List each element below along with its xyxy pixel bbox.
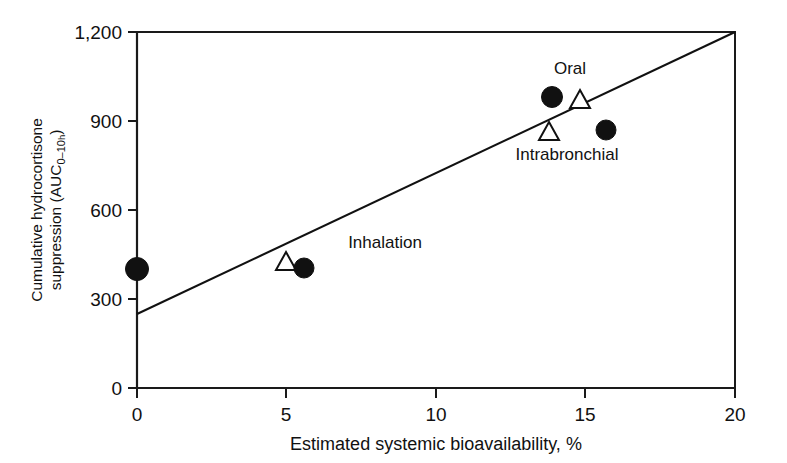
- figure-container: 0 300 600 900 1,200 0 5 10 15 20 Estimat…: [0, 0, 787, 463]
- x-tick-label-5: 5: [281, 404, 292, 425]
- data-point-filled-circle-intrabronchial: [596, 120, 616, 140]
- y-axis-ticks: [128, 32, 137, 388]
- y-axis-title-paren-close: ): [47, 130, 64, 135]
- y-axis-title-line2-main: suppression (AUC: [47, 165, 64, 291]
- data-point-open-triangle-inhalation: [276, 252, 296, 270]
- data-point-filled-circle-inhalation: [294, 258, 314, 278]
- y-tick-label-1200: 1,200: [74, 22, 122, 43]
- x-tick-label-0: 0: [132, 404, 143, 425]
- data-point-filled-circle-oral: [542, 87, 563, 108]
- y-axis-title-line2: suppression (AUC0–10h): [47, 130, 67, 291]
- y-axis-title-line1: Cumulative hydrocortisone: [28, 118, 45, 302]
- y-tick-label-900: 900: [90, 111, 122, 132]
- y-tick-label-300: 300: [90, 289, 122, 310]
- trend-line: [137, 32, 735, 314]
- plot-frame: [137, 32, 735, 388]
- x-tick-label-10: 10: [425, 404, 446, 425]
- x-axis-ticks: [137, 388, 735, 398]
- x-tick-label-20: 20: [724, 404, 745, 425]
- y-tick-label-0: 0: [111, 378, 122, 399]
- x-tick-label-15: 15: [574, 404, 595, 425]
- annotation-label-oral: Oral: [554, 59, 586, 78]
- data-point-open-triangle-intrabronchial: [539, 122, 559, 140]
- y-tick-label-600: 600: [90, 200, 122, 221]
- annotation-label-inhalation: Inhalation: [348, 233, 422, 252]
- data-point-filled-circle-baseline: [126, 258, 149, 281]
- scatter-plot: 0 300 600 900 1,200 0 5 10 15 20 Estimat…: [0, 0, 787, 463]
- x-axis-title: Estimated systemic bioavailability, %: [290, 434, 582, 454]
- y-axis-title-subscript-range: 0–10: [55, 140, 67, 164]
- y-axis-title: Cumulative hydrocortisone suppression (A…: [28, 118, 67, 302]
- annotation-label-intrabronchial: Intrabronchial: [515, 145, 618, 164]
- data-point-open-triangle-oral: [570, 90, 590, 108]
